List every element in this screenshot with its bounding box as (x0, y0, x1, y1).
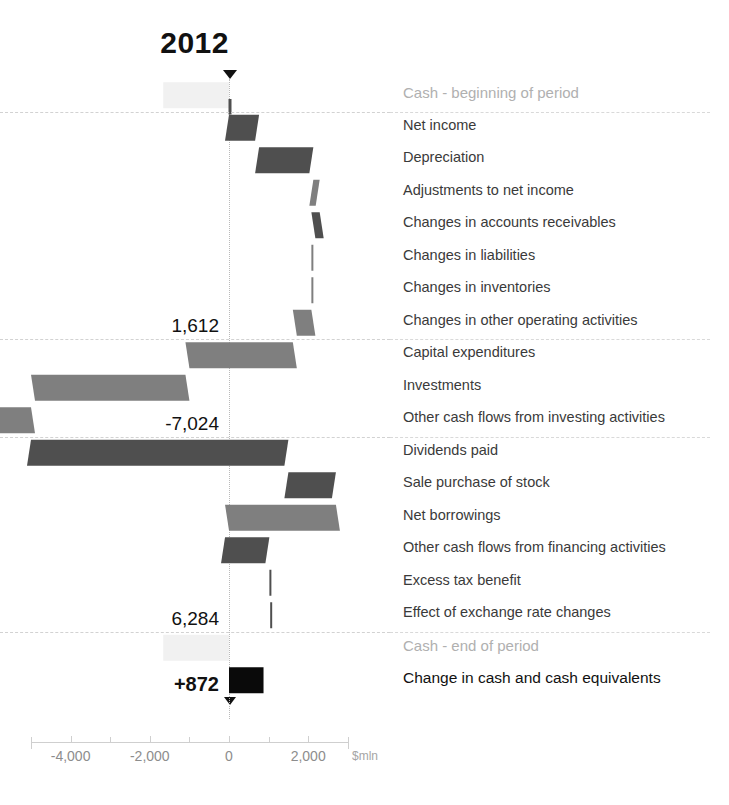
waterfall-bar (221, 537, 269, 563)
axis-tick (308, 736, 309, 743)
row-label: Other cash flows from financing activiti… (403, 539, 666, 555)
row-label: Depreciation (403, 149, 484, 165)
axis-tick-label: 0 (189, 748, 269, 764)
axis-unit-label: $mln (352, 749, 378, 763)
axis-minor-tick (31, 737, 32, 742)
waterfall-bar (284, 472, 336, 498)
row-label: Changes in other operating activities (403, 312, 638, 328)
waterfall-bar (270, 602, 272, 628)
row-label: Effect of exchange rate changes (403, 604, 611, 620)
waterfall-bar (255, 147, 313, 173)
row-label: Investments (403, 377, 481, 393)
axis-tick (229, 736, 230, 743)
waterfall-bar (269, 570, 271, 596)
waterfall-bar (311, 277, 313, 303)
row-label: Excess tax benefit (403, 572, 521, 588)
axis-minor-tick (269, 737, 270, 742)
row-label: Changes in inventories (403, 279, 551, 295)
subtotal-value-1: 1,612 (0, 315, 225, 337)
waterfall-bar (229, 667, 264, 693)
axis-minor-tick (348, 737, 349, 742)
row-label: Net borrowings (403, 507, 501, 523)
waterfall-plot: 1,612-7,0246,284+872 (0, 0, 390, 805)
row-label: Capital expenditures (403, 344, 535, 360)
row-label-column: Cash - beginning of periodNet incomeDepr… (390, 0, 729, 805)
subtotal-value-2: -7,024 (0, 413, 225, 435)
row-label: Change in cash and cash equivalents (403, 669, 661, 687)
row-label: Cash - beginning of period (403, 84, 579, 101)
row-label: Changes in accounts receivables (403, 214, 616, 230)
group-divider (0, 339, 390, 340)
label-group-divider (390, 112, 710, 113)
waterfall-bar (225, 115, 259, 141)
axis-tick (71, 736, 72, 743)
subtotal-value-3: 6,284 (0, 608, 225, 630)
label-group-divider (390, 339, 710, 340)
label-group-divider (390, 437, 710, 438)
waterfall-bar (225, 505, 340, 531)
label-group-divider (390, 632, 710, 633)
waterfall-bar (311, 245, 313, 271)
waterfall-bar (163, 635, 229, 661)
axis-tick-label: -2,000 (110, 748, 190, 764)
row-label: Dividends paid (403, 442, 498, 458)
row-label: Adjustments to net income (403, 182, 574, 198)
group-divider (0, 632, 390, 633)
row-label: Sale purchase of stock (403, 474, 550, 490)
group-divider (0, 437, 390, 438)
waterfall-bar (27, 440, 288, 466)
waterfall-bar (185, 342, 296, 368)
axis-tick-label: 2,000 (268, 748, 348, 764)
axis-minor-tick (189, 737, 190, 742)
waterfall-bar (293, 310, 316, 336)
subtotal-value-4: +872 (0, 673, 225, 696)
axis-minor-tick (110, 737, 111, 742)
waterfall-bar (163, 82, 229, 108)
row-label: Net income (403, 117, 476, 133)
axis-tick (150, 736, 151, 743)
waterfall-bar (311, 212, 323, 238)
row-label: Other cash flows from investing activiti… (403, 409, 665, 425)
axis-tick-label: -4,000 (31, 748, 111, 764)
waterfall-chart-page: 2012 1,612-7,0246,284+872 Cash - beginni… (0, 0, 729, 805)
group-divider (0, 112, 390, 113)
waterfall-bar (309, 180, 319, 206)
row-label: Changes in liabilities (403, 247, 535, 263)
waterfall-bar (31, 375, 189, 401)
row-label: Cash - end of period (403, 637, 539, 654)
axis-baseline (31, 742, 348, 743)
